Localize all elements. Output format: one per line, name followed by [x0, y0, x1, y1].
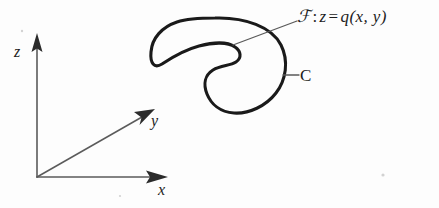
diagram-svg: [0, 0, 439, 208]
function-expression: q(x, y): [341, 7, 387, 26]
z-axis-label: z: [14, 44, 20, 60]
surface-leader-line: [233, 21, 297, 45]
x-axis-label: x: [158, 182, 165, 198]
scan-speck: [381, 173, 384, 176]
figure-canvas: z y x C ℱ:z=q(x, y): [0, 0, 439, 208]
scan-speck: [21, 30, 23, 32]
scan-speck: [119, 195, 121, 197]
surface-equation-label: ℱ:z=q(x, y): [297, 8, 387, 25]
y-axis-label: y: [151, 113, 158, 129]
script-f-symbol: ℱ: [297, 6, 310, 26]
z-variable: z: [320, 7, 327, 26]
y-axis-line: [37, 117, 142, 177]
colon-separator: :: [310, 7, 319, 26]
curve-label-c: C: [300, 67, 311, 84]
equals-sign: =: [327, 7, 341, 26]
